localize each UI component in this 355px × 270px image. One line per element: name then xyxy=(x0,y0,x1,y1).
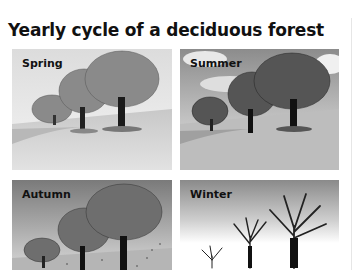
summer-panel: Summer xyxy=(180,49,339,170)
spring-label: Spring xyxy=(22,57,63,70)
page-title: Yearly cycle of a deciduous forest xyxy=(8,20,324,40)
autumn-panel: Autumn xyxy=(12,180,172,270)
autumn-label: Autumn xyxy=(22,188,71,201)
winter-panel: Winter xyxy=(180,180,339,270)
winter-label: Winter xyxy=(190,188,232,201)
spring-panel: Spring xyxy=(12,49,172,170)
divider xyxy=(351,18,352,270)
summer-label: Summer xyxy=(190,57,242,70)
